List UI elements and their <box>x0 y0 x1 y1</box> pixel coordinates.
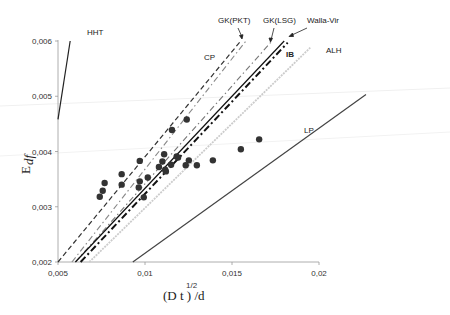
x-tick-label: 0,005 <box>48 269 69 278</box>
data-point <box>101 180 107 186</box>
data-point <box>137 158 143 164</box>
data-point <box>175 154 181 160</box>
label-cp: CP <box>204 53 215 62</box>
label-alh: ALH <box>326 46 342 55</box>
data-point <box>161 151 167 157</box>
line-lp <box>133 95 366 262</box>
data-point <box>159 158 165 164</box>
data-point <box>100 188 106 194</box>
line-gk-pkt <box>72 41 246 262</box>
x-tick-label: 0,01 <box>137 269 153 278</box>
data-point <box>194 162 200 168</box>
data-point <box>136 184 142 190</box>
data-point <box>141 194 147 200</box>
data-point <box>186 157 192 163</box>
data-point <box>97 194 103 200</box>
data-point <box>238 146 244 152</box>
y-tick-label: 0,005 <box>32 92 53 101</box>
data-point <box>145 174 151 180</box>
y-axis-ticks: 0,0020,0030,0040,0050,006 <box>32 37 58 267</box>
x-tick-label: 0,015 <box>222 269 243 278</box>
y-tick-label: 0,006 <box>32 37 53 46</box>
annotation-arrows <box>238 28 307 42</box>
data-point <box>156 164 162 170</box>
x-axis-ticks: 0,0050,010,0150,02 <box>48 262 327 278</box>
data-point <box>118 181 124 187</box>
data-point <box>256 136 262 142</box>
data-points <box>97 116 263 200</box>
x-tick-label: 0,02 <box>311 269 327 278</box>
model-lines <box>58 41 366 262</box>
label-hht: HHT <box>87 28 104 37</box>
line-hht <box>58 41 70 119</box>
y-tick-label: 0,002 <box>32 258 53 267</box>
data-point <box>184 116 190 122</box>
y-tick-label: 0,003 <box>32 203 53 212</box>
label-lp: LP <box>304 126 314 135</box>
background-artifact <box>0 132 450 156</box>
annotations: HHT CP GK(PKT) GK(LSG) Walla-Vir IB ALH … <box>87 16 342 135</box>
data-point <box>168 162 174 168</box>
x-axis-label: (D t ) /d <box>163 288 205 303</box>
y-axis-label: E df <box>18 153 36 175</box>
label-walla: Walla-Vir <box>307 16 339 25</box>
data-point <box>118 171 124 177</box>
data-point <box>163 168 169 174</box>
svg-text:E: E <box>18 166 33 174</box>
data-point <box>137 178 143 184</box>
label-ib: IB <box>286 50 294 59</box>
label-gklsg: GK(LSG) <box>263 16 296 25</box>
line-ib <box>81 43 288 262</box>
data-point <box>169 127 175 133</box>
line-alh <box>89 48 310 262</box>
data-point <box>210 157 216 163</box>
chart: 0,0020,0030,0040,0050,006 0,0050,010,015… <box>0 0 450 315</box>
label-gkpkt: GK(PKT) <box>218 16 251 25</box>
